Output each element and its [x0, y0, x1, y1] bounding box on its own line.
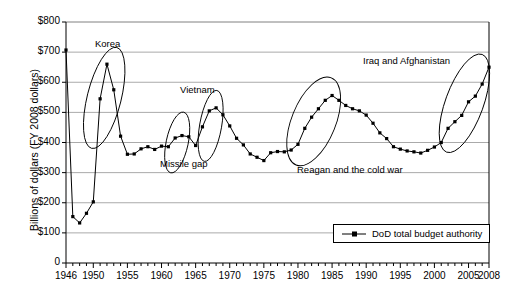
y-axis-tick-label: 0 [8, 256, 60, 267]
y-axis-tick-label: $600 [8, 75, 60, 86]
chart-legend: DoD total budget authority [333, 224, 490, 243]
legend-line-marker-icon [341, 229, 367, 239]
y-axis-tick-label: $500 [8, 105, 60, 116]
chart-annotation-label: Missile gap [160, 158, 240, 169]
y-axis-tick-label: $400 [8, 136, 60, 147]
y-axis-tick-label: $200 [8, 196, 60, 207]
chart-annotation-label: Reagan and the cold war [297, 164, 437, 175]
chart-annotation-label: Korea [95, 38, 155, 49]
legend-entry-label: DoD total budget authority [372, 228, 482, 239]
y-axis-tick-label: $100 [8, 226, 60, 237]
chart-annotation-label: Vietnam [180, 84, 240, 95]
x-axis-tick-label: 2008 [469, 270, 505, 281]
y-axis-tick-label: $800 [8, 15, 60, 26]
y-axis-tick-label: $700 [8, 45, 60, 56]
y-axis-tick-label: $300 [8, 166, 60, 177]
chart-annotation-label: Iraq and Afghanistan [363, 55, 493, 66]
